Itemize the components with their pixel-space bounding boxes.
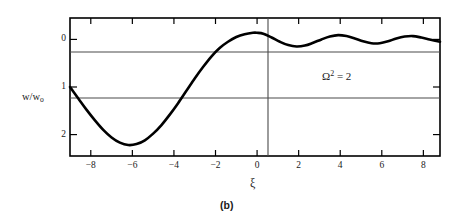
x-tick-label: −8 [82,161,100,171]
figure-caption: (b) [220,200,233,211]
y-axis-title: w/wo [22,92,44,103]
y-tick-label: 0 [56,34,66,44]
x-tick-label: −4 [165,161,183,171]
x-tick-label: 2 [290,161,308,171]
x-axis-title: ξ [250,177,255,189]
omega-exponent: 2 [330,69,334,78]
chart-canvas [0,0,458,220]
y-tick-label: 1 [56,82,66,92]
x-axis-ticks-bottom [91,150,424,156]
data-curve [70,33,440,146]
x-tick-label: 6 [373,161,391,171]
y-tick-label: 2 [56,130,66,140]
x-tick-label: 8 [414,161,432,171]
x-tick-label: −2 [207,161,225,171]
omega-squared-annotation: Ω2 = 2 [322,70,351,82]
y-axis-ticks-right [433,39,440,134]
omega-value: = 2 [337,70,351,82]
x-tick-label: 0 [248,161,266,171]
y-axis-title-subscript: o [40,95,44,104]
plot-frame [70,18,440,156]
x-axis-ticks-top [91,18,424,24]
omega-symbol: Ω [322,70,330,82]
figure-panel-b: w/wo ξ Ω2 = 2 (b) −8−6−4−202468 012 [0,0,458,220]
y-axis-title-main: w/w [22,91,40,102]
x-tick-label: 4 [331,161,349,171]
x-tick-label: −6 [123,161,141,171]
